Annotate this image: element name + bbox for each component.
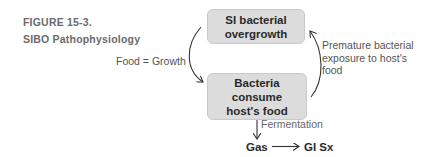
gas-node: Gas: [246, 141, 268, 153]
si-overgrowth-box: SI bacterial overgrowth: [207, 9, 305, 44]
gi-sx-node: GI Sx: [304, 141, 333, 153]
box-line: host's food: [208, 104, 306, 118]
box-line: overgrowth: [225, 27, 288, 41]
bacteria-consume-box: Bacteria consume host's food: [207, 73, 307, 120]
label-line: exposure to host's: [322, 52, 430, 65]
premature-exposure-arrow: [310, 31, 321, 97]
food-growth-arrow: [189, 27, 203, 82]
label-line: Premature bacterial: [322, 39, 430, 52]
label-line: food: [322, 64, 430, 77]
premature-exposure-label: Premature bacterial exposure to host's f…: [322, 39, 430, 77]
box-line: Bacteria consume: [208, 76, 306, 104]
fermentation-label: Fermentation: [261, 118, 323, 131]
box-line: SI bacterial: [225, 13, 288, 27]
food-growth-label: Food = Growth: [116, 55, 186, 68]
